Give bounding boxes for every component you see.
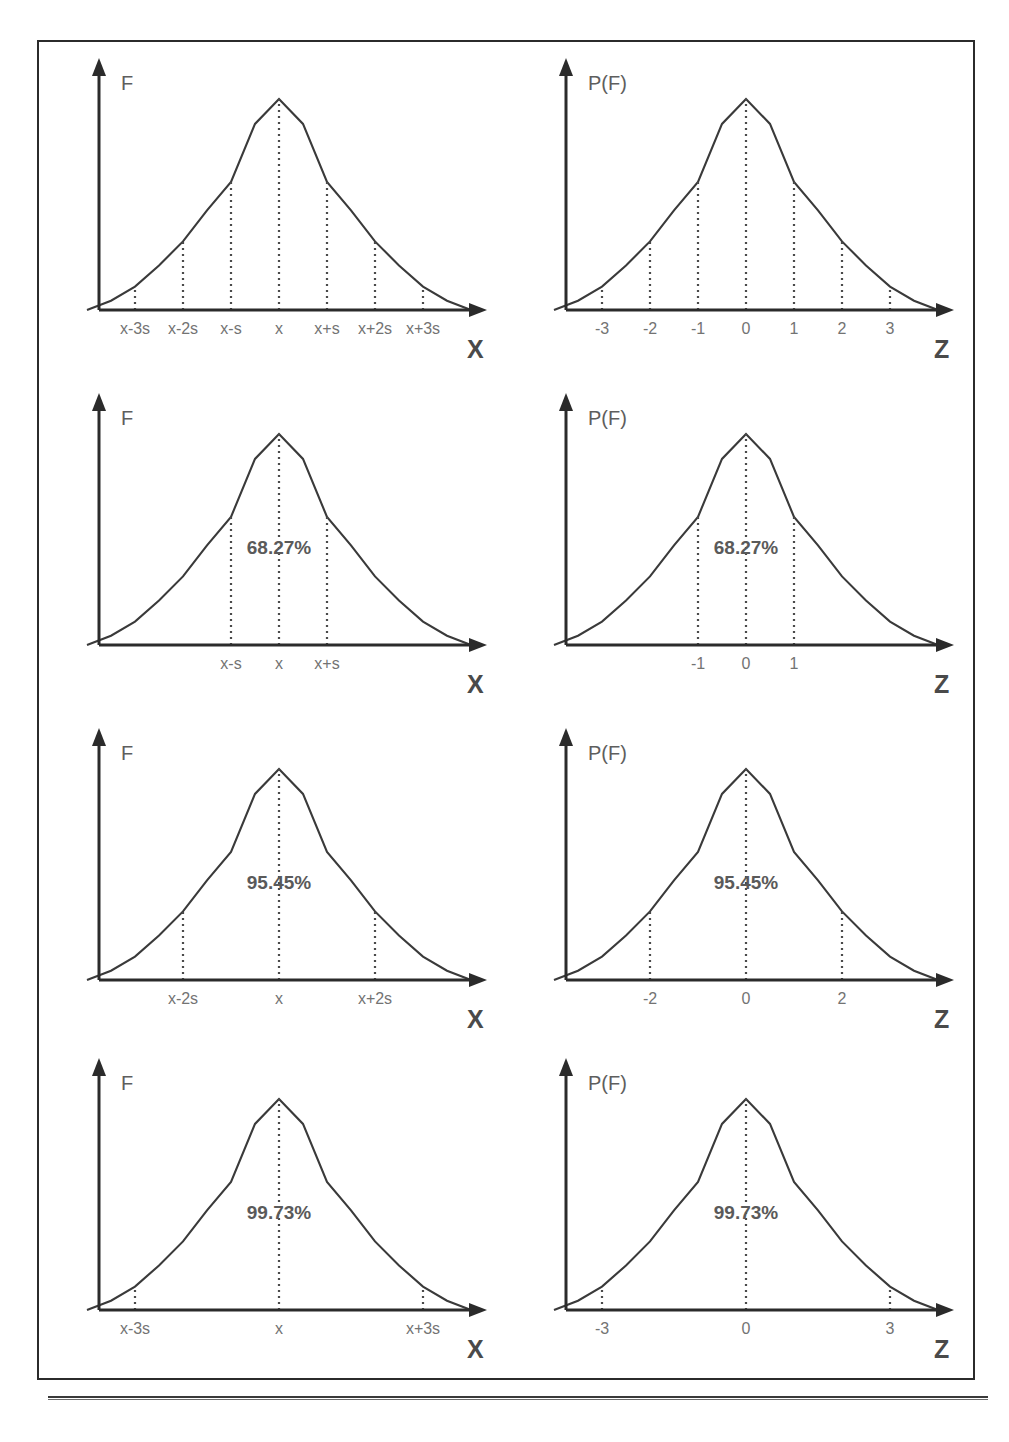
x-axis-label: Z	[934, 670, 949, 698]
x-axis-arrowhead	[936, 638, 954, 652]
chart-panel: FXx-3sx-2sx-sxx+sx+2sx+3s	[41, 42, 506, 377]
percentage-annotation: 68.27%	[247, 537, 312, 558]
x-tick-label: x+2s	[358, 990, 392, 1007]
x-axis-label: X	[467, 670, 484, 698]
x-tick-label: x-3s	[120, 320, 150, 337]
y-axis-label: F	[121, 742, 133, 764]
x-tick-label: x	[275, 990, 283, 1007]
x-tick-label: 0	[742, 990, 751, 1007]
x-axis-arrowhead	[469, 1303, 487, 1317]
x-tick-label: x	[275, 1320, 283, 1337]
x-axis-arrowhead	[936, 303, 954, 317]
x-axis-label: Z	[934, 1335, 949, 1363]
panel-row: FXx-3sxx+3s99.73% P(F)Z-30399.73%	[39, 1042, 973, 1377]
y-axis-label: F	[121, 1072, 133, 1094]
chart-panel: FXx-2sxx+2s95.45%	[41, 712, 506, 1047]
horizontal-divider	[48, 1396, 988, 1400]
x-tick-label: 0	[742, 1320, 751, 1337]
y-axis-arrowhead	[92, 393, 106, 411]
chart-panel: P(F)Z-3-2-10123	[508, 42, 973, 377]
figure-frame: FXx-3sx-2sx-sxx+sx+2sx+3s P(F)Z-3-2-1012…	[37, 40, 975, 1380]
x-tick-label: 0	[742, 320, 751, 337]
x-tick-label: x-s	[220, 655, 241, 672]
y-axis-arrowhead	[559, 1058, 573, 1076]
y-axis-arrowhead	[92, 728, 106, 746]
x-axis-arrowhead	[469, 638, 487, 652]
panel-row: FXx-3sx-2sx-sxx+sx+2sx+3s P(F)Z-3-2-1012…	[39, 42, 973, 377]
y-axis-arrowhead	[559, 58, 573, 76]
x-axis-arrowhead	[469, 303, 487, 317]
percentage-annotation: 99.73%	[714, 1202, 779, 1223]
x-tick-label: 2	[838, 320, 847, 337]
x-axis-arrowhead	[936, 1303, 954, 1317]
y-axis-arrowhead	[559, 728, 573, 746]
y-axis-arrowhead	[559, 393, 573, 411]
chart-panel: P(F)Z-10168.27%	[508, 377, 973, 712]
x-tick-label: x	[275, 320, 283, 337]
x-tick-label: x+s	[314, 655, 339, 672]
x-tick-label: -2	[643, 320, 657, 337]
x-axis-arrowhead	[469, 973, 487, 987]
y-axis-label: F	[121, 407, 133, 429]
panel-row: FXx-2sxx+2s95.45% P(F)Z-20295.45%	[39, 712, 973, 1047]
y-axis-arrowhead	[92, 58, 106, 76]
y-axis-label: P(F)	[588, 407, 627, 429]
y-axis-label: P(F)	[588, 1072, 627, 1094]
percentage-annotation: 99.73%	[247, 1202, 312, 1223]
y-axis-label: F	[121, 72, 133, 94]
chart-panel: P(F)Z-30399.73%	[508, 1042, 973, 1377]
x-tick-label: -1	[691, 320, 705, 337]
x-tick-label: -3	[595, 1320, 609, 1337]
x-axis-arrowhead	[936, 973, 954, 987]
x-tick-label: x+3s	[406, 1320, 440, 1337]
x-tick-label: 1	[790, 320, 799, 337]
chart-panel: P(F)Z-20295.45%	[508, 712, 973, 1047]
x-tick-label: 3	[886, 1320, 895, 1337]
x-tick-label: x	[275, 655, 283, 672]
percentage-annotation: 95.45%	[714, 872, 779, 893]
x-tick-label: -1	[691, 655, 705, 672]
x-axis-label: X	[467, 1335, 484, 1363]
x-tick-label: 2	[838, 990, 847, 1007]
x-tick-label: x-3s	[120, 1320, 150, 1337]
x-tick-label: 3	[886, 320, 895, 337]
x-axis-label: Z	[934, 1005, 949, 1033]
x-tick-label: -2	[643, 990, 657, 1007]
panel-row: FXx-sxx+s68.27% P(F)Z-10168.27%	[39, 377, 973, 712]
x-axis-label: Z	[934, 335, 949, 363]
x-axis-label: X	[467, 335, 484, 363]
chart-panel: FXx-3sxx+3s99.73%	[41, 1042, 506, 1377]
percentage-annotation: 68.27%	[714, 537, 779, 558]
x-tick-label: x+s	[314, 320, 339, 337]
chart-panel: FXx-sxx+s68.27%	[41, 377, 506, 712]
x-tick-label: x+2s	[358, 320, 392, 337]
x-tick-label: 0	[742, 655, 751, 672]
x-tick-label: x-2s	[168, 990, 198, 1007]
x-tick-label: 1	[790, 655, 799, 672]
y-axis-label: P(F)	[588, 742, 627, 764]
y-axis-arrowhead	[92, 1058, 106, 1076]
x-tick-label: -3	[595, 320, 609, 337]
percentage-annotation: 95.45%	[247, 872, 312, 893]
x-tick-label: x-s	[220, 320, 241, 337]
y-axis-label: P(F)	[588, 72, 627, 94]
x-tick-label: x-2s	[168, 320, 198, 337]
x-axis-label: X	[467, 1005, 484, 1033]
figure-caption	[48, 1430, 948, 1442]
x-tick-label: x+3s	[406, 320, 440, 337]
